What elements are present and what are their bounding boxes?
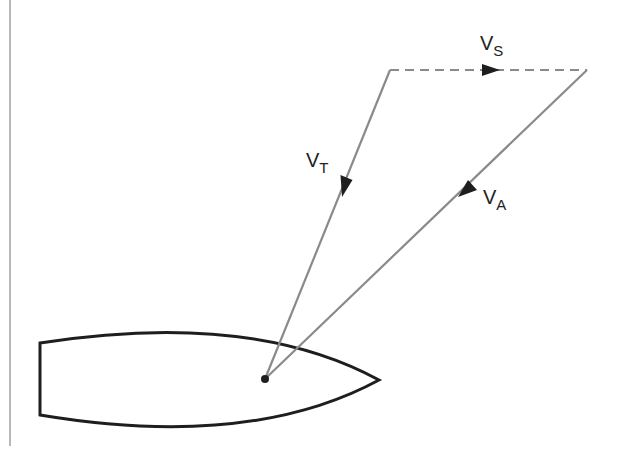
vs-arrowhead-icon bbox=[482, 64, 500, 76]
va-vector-line bbox=[265, 70, 587, 379]
boat-reference-point bbox=[261, 375, 269, 383]
va-label: VA bbox=[483, 186, 506, 213]
vt-vector-line bbox=[265, 70, 390, 379]
vt-label: VT bbox=[306, 149, 329, 176]
boat-hull bbox=[40, 332, 379, 426]
vt-arrowhead-icon bbox=[341, 175, 353, 197]
vs-label: VS bbox=[480, 32, 503, 59]
apparent-wind-diagram: VS VT VA bbox=[0, 0, 620, 450]
va-arrowhead-icon bbox=[458, 180, 477, 197]
